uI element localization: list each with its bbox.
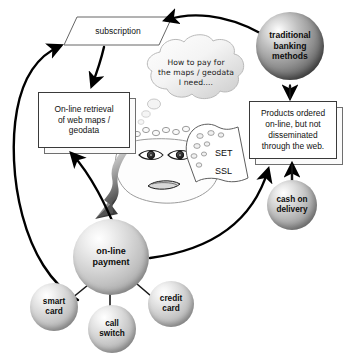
- credit-card-node[interactable]: credit card: [148, 281, 194, 327]
- edge-payment-to-products: [150, 170, 268, 258]
- edge-payment-to-subscription: [14, 46, 78, 300]
- thought-bubble-label: How to pay for the maps / geodata I need…: [146, 58, 246, 88]
- edge-banking-to-subscription: [166, 15, 262, 34]
- edge-subscription-to-retrieval: [92, 47, 104, 85]
- ssl-label: SSL: [215, 164, 232, 178]
- cash-on-delivery-node[interactable]: cash on delivery: [267, 180, 317, 230]
- smart-card-node[interactable]: smart card: [30, 283, 78, 331]
- set-label: SET: [215, 146, 233, 160]
- online-payment-node[interactable]: on-line payment: [73, 219, 149, 295]
- diagram-canvas: subscription On-line retrieval of web ma…: [0, 0, 345, 354]
- traditional-banking-node[interactable]: traditional banking methods: [256, 12, 324, 80]
- call-switch-node[interactable]: call switch: [88, 305, 136, 353]
